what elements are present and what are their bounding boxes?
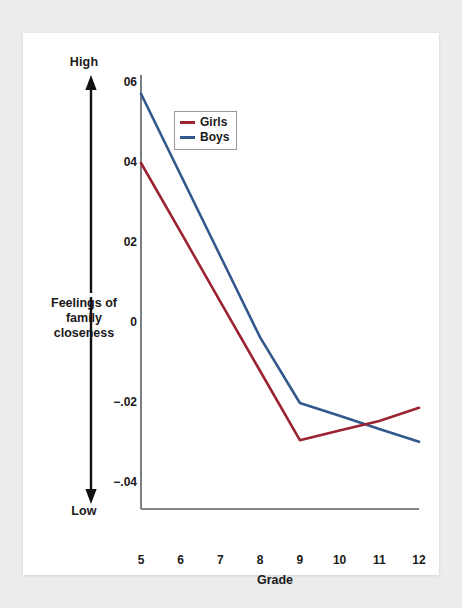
legend-label-girls: Girls (200, 116, 227, 129)
x-tick-label: 9 (287, 553, 313, 567)
legend-swatch-boys (180, 136, 195, 139)
legend-item-boys: Boys (180, 130, 229, 145)
value-direction-annotation: High Feelings of family closeness Low (41, 55, 127, 525)
y-tick-label: −.04 (97, 475, 137, 489)
high-label: High (41, 55, 127, 69)
low-label: Low (41, 504, 127, 518)
chart-card: High Feelings of family closeness Low 06… (23, 33, 439, 575)
chart-legend: Girls Boys (174, 111, 237, 150)
line-chart-svg (127, 73, 423, 553)
x-tick-label: 12 (406, 553, 432, 567)
y-tick-label: 04 (97, 155, 137, 169)
x-axis-tick-labels: 56789101112 (127, 553, 423, 575)
y-tick-label: 06 (97, 75, 137, 89)
up-arrow-icon (84, 75, 98, 297)
y-tick-label: 0 (97, 315, 137, 329)
x-tick-label: 5 (128, 553, 154, 567)
x-axis-title: Grade (127, 573, 423, 587)
legend-label-boys: Boys (200, 131, 229, 144)
down-arrow-icon (84, 297, 98, 504)
x-tick-label: 6 (168, 553, 194, 567)
x-tick-label: 7 (207, 553, 233, 567)
y-axis-tick-labels: 0604020−.02−.04 (127, 73, 141, 553)
legend-swatch-girls (180, 121, 195, 124)
y-tick-label: −.02 (97, 395, 137, 409)
x-tick-label: 10 (327, 553, 353, 567)
x-tick-label: 11 (366, 553, 392, 567)
series-line-girls (141, 163, 419, 440)
y-tick-label: 02 (97, 235, 137, 249)
x-tick-label: 8 (247, 553, 273, 567)
plot-area (127, 73, 423, 553)
legend-item-girls: Girls (180, 115, 229, 130)
